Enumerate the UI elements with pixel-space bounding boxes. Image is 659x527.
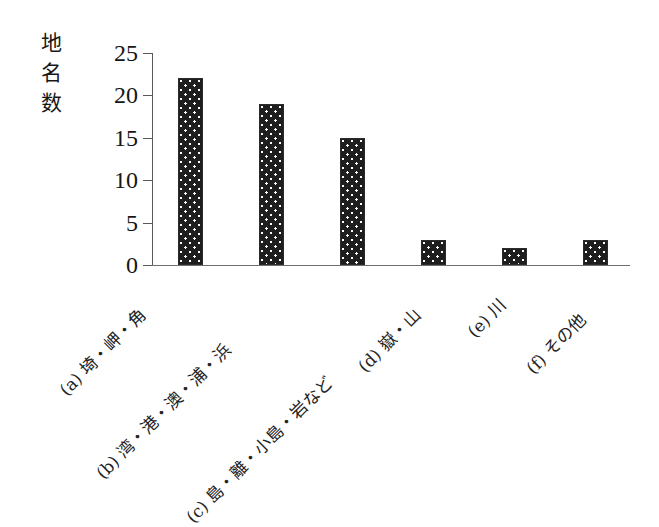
- y-tick-label-20: 20: [94, 82, 138, 108]
- x-label-b: (b) 湾・港・澳・浦・浜: [93, 346, 230, 483]
- y-tick-25: 25: [143, 53, 152, 54]
- y-tick-label-0: 0: [94, 252, 138, 278]
- x-axis-baseline: [152, 265, 630, 266]
- bar-a[interactable]: [178, 78, 203, 265]
- bar-c[interactable]: [340, 138, 365, 265]
- y-tick-15: 15: [143, 138, 152, 139]
- x-label-e: (e) 川: [447, 296, 510, 359]
- y-tick-label-15: 15: [94, 125, 138, 151]
- plot-area: 0 5 10 15 20 25: [152, 53, 630, 265]
- x-label-f: (f) その他: [509, 311, 590, 392]
- y-tick-label-5: 5: [94, 210, 138, 236]
- y-tick-10: 10: [143, 180, 152, 181]
- x-label-a: (a) 埼・岬・角: [52, 306, 150, 404]
- y-tick-20: 20: [143, 95, 152, 96]
- y-tick-label-10: 10: [94, 167, 138, 193]
- x-label-c: (c) 島・離・小島・岩など: [183, 378, 332, 527]
- bar-b[interactable]: [259, 104, 284, 265]
- bar-f[interactable]: [583, 240, 608, 265]
- y-axis-title: 地 名 数: [34, 28, 68, 118]
- bar-d[interactable]: [421, 240, 446, 265]
- bar-e[interactable]: [502, 248, 527, 265]
- y-tick-0: 0: [143, 265, 152, 266]
- y-tick-5: 5: [143, 223, 152, 224]
- x-label-d: (d) 嶽・山: [344, 306, 425, 387]
- y-tick-label-25: 25: [94, 40, 138, 66]
- y-axis-line: [152, 53, 153, 265]
